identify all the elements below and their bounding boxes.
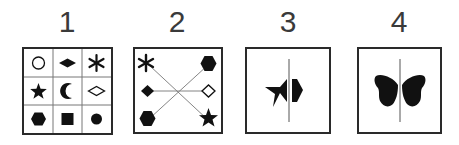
circle-outline-icon [33,57,45,69]
asterisk-icon [90,55,104,71]
panel-4-label: 4 [379,6,419,38]
panel-2-connections [133,47,223,134]
connector-lines [149,65,208,120]
square-filled-icon [62,113,74,125]
star-filled-icon [30,83,47,99]
panel-3-label: 3 [268,6,308,38]
asterisk-icon [139,55,153,71]
diamond-outline-icon [89,87,105,96]
panel-1-grid [22,47,113,135]
panel-3-mirror [245,47,331,134]
panel-1-label: 1 [47,6,87,38]
diamond-filled-icon [59,59,76,68]
half-hexagon-icon [292,79,303,102]
hexagon-filled-icon [201,56,217,71]
diamond-outline-icon [202,85,215,97]
half-star-icon [265,79,287,107]
panel-2-label: 2 [157,6,197,38]
circle-filled-icon [91,114,102,125]
panel-4-butterfly [357,47,442,134]
crescent-moon-icon [60,83,72,99]
star-filled-icon [199,108,218,127]
hexagon-filled-icon [31,113,46,126]
hexagon-filled-icon [140,111,156,126]
diamond-filled-icon [141,85,154,97]
